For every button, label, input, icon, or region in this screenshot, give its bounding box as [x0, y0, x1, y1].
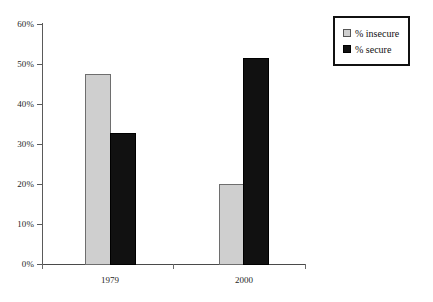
y-axis-tick-60	[37, 24, 42, 25]
bar-1979-insecure	[85, 74, 111, 265]
legend-item-secure: % secure	[343, 41, 399, 57]
y-axis-label-0: 0%	[2, 260, 34, 269]
x-axis-tick-start	[42, 264, 43, 269]
y-axis-label-10: 10%	[2, 220, 34, 229]
legend-swatch-secure-icon	[343, 45, 351, 53]
legend-label-secure: % secure	[355, 44, 391, 55]
x-axis-tick-end	[305, 264, 306, 269]
bar-2000-insecure	[219, 184, 244, 265]
bar-2000-secure	[243, 58, 269, 265]
y-axis-label-20: 20%	[2, 180, 34, 189]
y-axis-tick-10	[37, 224, 42, 225]
bar-chart: 60% 50% 40% 30% 20% 10% 0% 1979 2000 % i…	[0, 0, 433, 302]
legend-item-insecure: % insecure	[343, 25, 399, 41]
bar-1979-secure	[110, 133, 136, 265]
legend-label-insecure: % insecure	[355, 28, 399, 39]
y-axis-tick-20	[37, 184, 42, 185]
y-axis-label-40: 40%	[2, 100, 34, 109]
y-axis-tick-30	[37, 144, 42, 145]
y-axis-tick-40	[37, 104, 42, 105]
y-axis-tick-50	[37, 64, 42, 65]
x-axis-category-1979: 1979	[80, 275, 140, 285]
y-axis-label-30: 30%	[2, 140, 34, 149]
x-axis-tick-middle	[173, 264, 174, 269]
legend: % insecure % secure	[333, 16, 410, 66]
legend-swatch-insecure-icon	[343, 29, 351, 37]
legend-inner: % insecure % secure	[342, 24, 400, 58]
y-axis-label-60: 60%	[2, 20, 34, 29]
y-axis-label-50: 50%	[2, 60, 34, 69]
y-axis-line	[42, 23, 43, 265]
x-axis-category-2000: 2000	[214, 275, 274, 285]
